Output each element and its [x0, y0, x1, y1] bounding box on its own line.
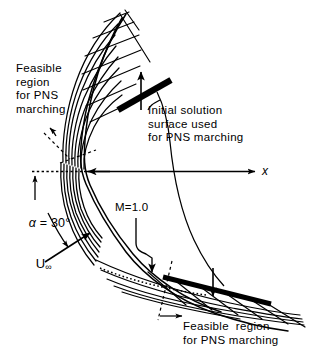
- figure-container: Feasible region for PNS marching Initial…: [0, 0, 317, 360]
- lower-grid-lines: [96, 260, 304, 325]
- feasible-region-top-label: Feasible region for PNS marching: [16, 62, 66, 116]
- freestream-velocity-label: U∞: [20, 243, 52, 288]
- sonic-line-leader: [136, 218, 152, 272]
- sonic-line-label: M=1.0: [115, 201, 148, 215]
- angle-of-attack-label: α = 30°: [14, 203, 70, 244]
- infinity-subscript: ∞: [45, 262, 52, 272]
- alpha-symbol: α: [29, 216, 36, 230]
- alpha-value: 30: [51, 216, 65, 230]
- diagram-line-art: [0, 0, 317, 360]
- initial-solution-surface-label: Initial solution surface used for PNS ma…: [148, 104, 244, 145]
- x-axis-label: x: [262, 165, 268, 179]
- u-symbol: U: [36, 256, 46, 271]
- alpha-unit: °: [65, 216, 70, 230]
- feasible-region-bottom-label: Feasible region for PNS marching: [183, 320, 279, 347]
- alpha-equals: =: [36, 216, 51, 230]
